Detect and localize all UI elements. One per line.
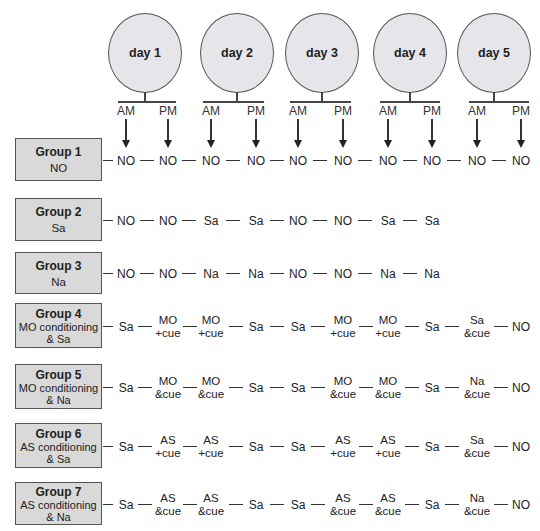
connector-dash [445, 446, 459, 447]
treatment-label: AS [155, 492, 181, 505]
treatment-label: NO [247, 154, 265, 167]
treatment-label: NO [512, 154, 530, 167]
treatment-token: Sa [291, 381, 306, 394]
treatment-token: Sa [249, 381, 264, 394]
treatment-token: Sa [249, 498, 264, 511]
arrow-head-icon [252, 140, 260, 148]
treatment-token: Sa [204, 214, 219, 227]
day-bracket [290, 101, 351, 103]
treatment-label: Na [464, 375, 490, 388]
arrow-head-icon [164, 140, 172, 148]
treatment-token: Sa [425, 320, 440, 333]
connector-dash [183, 446, 197, 447]
treatment-token: NO [159, 268, 177, 281]
session-label: AM [379, 104, 397, 118]
treatment-label: Sa [381, 214, 396, 227]
treatment-label: +cue [198, 327, 223, 340]
connector-dash [311, 326, 325, 327]
group-title: Group 6 [16, 427, 101, 441]
connector-dash [140, 220, 154, 221]
connector-dash [138, 326, 152, 327]
connector-dash [359, 326, 373, 327]
treatment-token: NO [289, 214, 307, 227]
treatment-token: MO&cue [198, 375, 224, 401]
treatment-label: NO [512, 320, 530, 333]
group-condition: & Sa [16, 333, 101, 345]
connector-dash [313, 160, 327, 161]
group-box: Group 3Na [15, 252, 102, 294]
treatment-label: Sa [119, 381, 134, 394]
treatment-token: NO [334, 268, 352, 281]
treatment-label: Sa [291, 320, 306, 333]
treatment-label: Na [424, 268, 439, 281]
group-condition: & Na [16, 394, 101, 406]
treatment-token: Na&cue [464, 492, 490, 518]
treatment-token: Na [248, 268, 263, 281]
treatment-token: AS+cue [375, 434, 400, 460]
connector-line [103, 160, 113, 161]
treatment-token: NO [117, 268, 135, 281]
treatment-label: MO [330, 314, 355, 327]
group-title: Group 4 [16, 307, 101, 321]
treatment-token: NO [159, 154, 177, 167]
treatment-label: NO [423, 154, 441, 167]
treatment-label: MO [375, 375, 401, 388]
treatment-label: Sa [425, 498, 440, 511]
treatment-token: Na [380, 268, 395, 281]
connector-dash [182, 160, 196, 161]
treatment-label: NO [159, 214, 177, 227]
treatment-label: Sa [291, 381, 306, 394]
treatment-label: Sa [249, 498, 264, 511]
arrow-head-icon [473, 140, 481, 148]
connector-dash [182, 220, 196, 221]
connector-dash [229, 504, 243, 505]
session-label: AM [202, 104, 220, 118]
treatment-token: NO [202, 154, 220, 167]
group-box: Group 5MO conditioning& Na [15, 364, 102, 409]
treatment-token: NO [512, 320, 530, 333]
day-circle: day 3 [285, 13, 359, 93]
treatment-token: NO [512, 498, 530, 511]
treatment-label: Sa [249, 214, 264, 227]
arrow-shaft [167, 119, 169, 141]
treatment-label: &cue [330, 505, 356, 518]
treatment-label: NO [202, 154, 220, 167]
treatment-label: NO [159, 154, 177, 167]
arrow-shaft [431, 119, 433, 141]
connector-dash [494, 446, 508, 447]
treatment-token: NO [468, 154, 486, 167]
connector-dash [405, 504, 419, 505]
treatment-label: NO [334, 268, 352, 281]
treatment-label: +cue [198, 447, 223, 460]
day-bracket [203, 101, 264, 103]
treatment-label: Sa [425, 320, 440, 333]
treatment-label: Sa [119, 498, 134, 511]
connector-dash [270, 504, 284, 505]
day-label: day 3 [306, 46, 338, 60]
connector-dash [140, 160, 154, 161]
day-label: day 2 [221, 46, 253, 60]
treatment-label: &cue [464, 327, 490, 340]
connector-line [103, 220, 113, 221]
connector-dash [183, 387, 197, 388]
treatment-label: AS [198, 492, 224, 505]
connector-dash [358, 220, 372, 221]
connector-dash [403, 273, 417, 274]
group-box: Group 6AS conditioning& Sa [15, 423, 102, 468]
arrow-head-icon [207, 140, 215, 148]
treatment-label: AS [198, 434, 223, 447]
treatment-label: MO [198, 314, 223, 327]
treatment-label: NO [117, 268, 135, 281]
treatment-token: NO [117, 214, 135, 227]
treatment-token: Sa [249, 440, 264, 453]
connector-dash [359, 446, 373, 447]
treatment-label: Sa [291, 440, 306, 453]
treatment-label: Na [203, 268, 218, 281]
session-label: PM [334, 104, 352, 118]
treatment-token: Sa [381, 214, 396, 227]
treatment-token: MO&cue [330, 375, 356, 401]
connector-line [103, 387, 113, 388]
treatment-token: NO [423, 154, 441, 167]
treatment-label: Na [380, 268, 395, 281]
connector-dash [445, 504, 459, 505]
